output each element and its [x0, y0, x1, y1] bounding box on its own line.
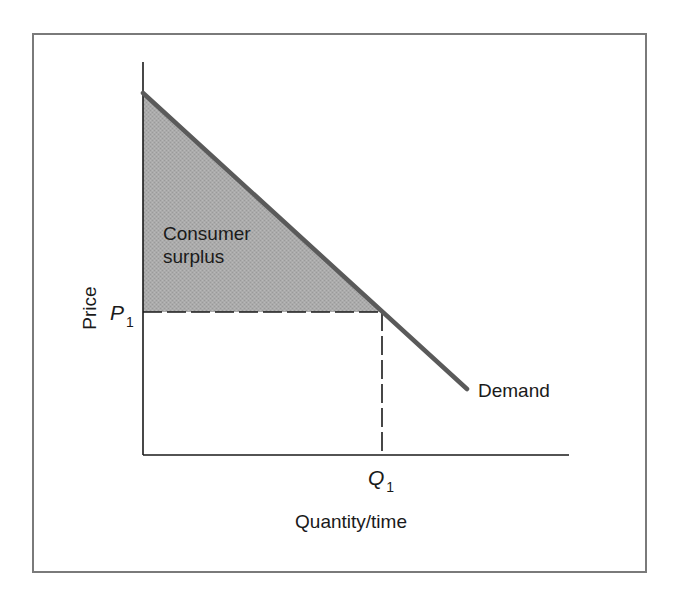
surplus-label-line2: surplus	[163, 246, 224, 267]
consumer-surplus-chart: Consumer surplus Demand P1 Q1 Quantity/t…	[0, 0, 686, 608]
q1-subscript: 1	[386, 479, 394, 495]
y-axis-title: Price	[79, 286, 100, 329]
q1-symbol: Q	[368, 466, 384, 489]
q1-tick-label: Q1	[368, 466, 394, 495]
p1-tick-label: P1	[110, 301, 134, 330]
p1-subscript: 1	[126, 314, 134, 330]
p1-symbol: P	[110, 301, 124, 324]
surplus-label-line1: Consumer	[163, 223, 251, 244]
x-axis-title: Quantity/time	[295, 511, 407, 532]
demand-label: Demand	[478, 380, 550, 401]
